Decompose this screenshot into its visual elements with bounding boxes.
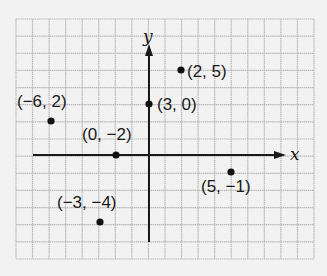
x-axis-label: x: [290, 144, 300, 164]
grid-lines: [16, 19, 314, 259]
point-label: (2, 5): [187, 62, 227, 81]
point-dot-icon: [112, 151, 119, 158]
plotted-points: (2, 5)(3, 0)(−6, 2)(0, −2)(5, −1)(−3, −4…: [17, 62, 251, 226]
point-label: (−3, −4): [57, 193, 117, 212]
point: (2, 5): [177, 62, 226, 81]
coordinate-plane: xy (2, 5)(3, 0)(−6, 2)(0, −2)(5, −1)(−3,…: [0, 0, 327, 276]
point-label: (3, 0): [157, 95, 197, 114]
x-axis-arrow-icon: [274, 151, 286, 159]
point-dot-icon: [96, 218, 103, 225]
point-dot-icon: [177, 66, 184, 73]
point-dot-icon: [145, 100, 152, 107]
point: (0, −2): [82, 125, 132, 159]
y-axis-label: y: [142, 26, 153, 46]
point-dot-icon: [227, 168, 234, 175]
point-label: (−6, 2): [17, 92, 67, 111]
point: (5, −1): [201, 168, 251, 196]
point-label: (0, −2): [82, 125, 132, 144]
point: (−6, 2): [17, 92, 67, 125]
point-dot-icon: [47, 117, 54, 124]
point-label: (5, −1): [201, 177, 251, 196]
